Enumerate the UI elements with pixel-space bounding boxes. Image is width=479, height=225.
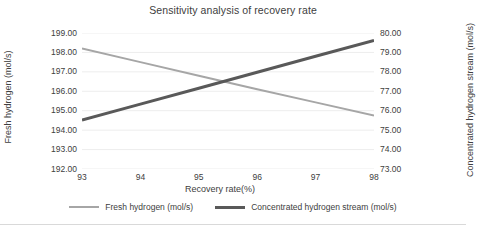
left-axis-title-text: Fresh hydrogen (mol/s) xyxy=(3,32,13,162)
x-axis-tick-label: 97 xyxy=(301,172,331,183)
x-axis-tick-label: 98 xyxy=(359,172,389,183)
y2-axis-tick-label: 77.00 xyxy=(380,87,426,96)
y-axis-tick-label: 198.00 xyxy=(31,48,77,57)
x-axis-tick-label: 94 xyxy=(125,172,155,183)
y-axis-tick-label: 193.00 xyxy=(31,145,77,154)
legend-label: Concentrated hydrogen stream (mol/s) xyxy=(251,202,397,212)
y2-axis-tick-label: 75.00 xyxy=(380,126,426,135)
y2-axis-tick-label: 79.00 xyxy=(380,48,426,57)
plot-canvas xyxy=(82,33,374,169)
legend-swatch-icon xyxy=(215,206,245,209)
x-axis-tick-label: 93 xyxy=(67,172,97,183)
y-axis-tick-label: 199.00 xyxy=(31,29,77,38)
x-axis-title: Recovery rate(%) xyxy=(60,184,380,194)
legend-label: Fresh hydrogen (mol/s) xyxy=(105,202,193,212)
right-axis-title-text: Concentrated hydrogen stream (mol/s) xyxy=(465,20,475,180)
right-axis-title: Concentrated hydrogen stream (mol/s) xyxy=(465,20,479,180)
series-line-0 xyxy=(82,49,374,116)
y2-axis-tick-label: 74.00 xyxy=(380,145,426,154)
right-axis-tick-labels: 73.0074.0075.0076.0077.0078.0079.0080.00 xyxy=(380,33,426,169)
y2-axis-tick-label: 78.00 xyxy=(380,67,426,76)
legend-item-0[interactable]: Fresh hydrogen (mol/s) xyxy=(69,202,193,212)
legend-item-1[interactable]: Concentrated hydrogen stream (mol/s) xyxy=(215,202,397,212)
y2-axis-tick-label: 76.00 xyxy=(380,106,426,115)
y-axis-tick-label: 194.00 xyxy=(31,126,77,135)
x-axis-tick-labels: 939495969798 xyxy=(82,172,374,184)
plot-area xyxy=(82,33,374,169)
chart-title: Sensitivity analysis of recovery rate xyxy=(0,4,466,16)
x-axis-tick-label: 95 xyxy=(184,172,214,183)
y-axis-tick-label: 195.00 xyxy=(31,106,77,115)
left-axis-tick-labels: 192.00193.00194.00195.00196.00197.00198.… xyxy=(31,33,77,169)
chart-legend: Fresh hydrogen (mol/s)Concentrated hydro… xyxy=(0,202,466,212)
y-axis-tick-label: 196.00 xyxy=(31,87,77,96)
left-axis-title: Fresh hydrogen (mol/s) xyxy=(3,0,17,32)
legend-swatch-icon xyxy=(69,206,99,208)
y2-axis-tick-label: 80.00 xyxy=(380,29,426,38)
x-axis-tick-label: 96 xyxy=(242,172,272,183)
y-axis-tick-label: 197.00 xyxy=(31,67,77,76)
